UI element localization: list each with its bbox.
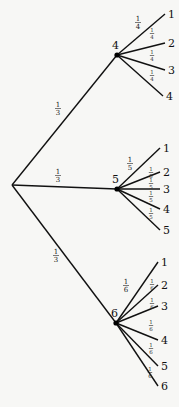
leaf-label-6-1: 1 — [161, 256, 168, 269]
leaf-label-5-5: 5 — [163, 224, 170, 237]
leaf-label-6-3: 3 — [161, 300, 168, 313]
node-label-6: 6 — [111, 307, 118, 320]
prob-5-to-5-numerator: 1 — [149, 207, 153, 213]
prob-5-to-1-denominator: 5 — [128, 164, 132, 172]
edge-5-to-5 — [117, 189, 160, 230]
prob-root-to-5-denominator: 3 — [56, 176, 60, 184]
leaf-label-4-1: 1 — [168, 8, 175, 21]
prob-6-to-4-numerator: 1 — [149, 319, 153, 325]
prob-4-to-4-numerator: 1 — [150, 69, 154, 75]
edge-4-to-3 — [117, 55, 165, 70]
node-label-4: 4 — [112, 39, 119, 52]
probability-tree: 1311421431441441311521531541551551311621… — [0, 0, 179, 407]
prob-6-to-3-denominator: 6 — [150, 304, 154, 310]
prob-5-to-3-denominator: 5 — [149, 184, 153, 190]
prob-6-to-2-denominator: 6 — [150, 285, 154, 291]
node-dot-4 — [114, 52, 119, 57]
prob-5-to-4-numerator: 1 — [149, 190, 153, 196]
prob-5-to-3-numerator: 1 — [149, 177, 153, 183]
leaf-label-4-3: 3 — [168, 64, 175, 77]
prob-6-to-6-numerator: 1 — [148, 366, 152, 372]
prob-4-to-2-denominator: 4 — [150, 34, 154, 40]
prob-root-to-6-denominator: 3 — [54, 256, 58, 264]
leaf-label-5-1: 1 — [163, 142, 170, 155]
edge-5-to-2 — [117, 172, 160, 189]
prob-4-to-1-denominator: 4 — [136, 23, 141, 31]
node-dot-5 — [114, 186, 119, 191]
edge-4-to-4 — [117, 55, 163, 96]
leaf-label-5-3: 3 — [163, 183, 170, 196]
edge-5-to-1 — [117, 148, 160, 189]
prob-5-to-4-denominator: 5 — [149, 197, 153, 203]
prob-6-to-1-denominator: 6 — [124, 286, 129, 294]
leaf-label-6-4: 4 — [161, 334, 168, 347]
leaf-label-6-6: 6 — [161, 380, 168, 393]
leaf-label-4-4: 4 — [166, 90, 173, 103]
prob-6-to-2-numerator: 1 — [150, 278, 154, 284]
node-dot-6 — [113, 320, 118, 325]
prob-6-to-5-denominator: 6 — [149, 349, 153, 355]
edge-root-to-5 — [12, 185, 117, 189]
edge-root-to-4 — [12, 55, 117, 185]
leaf-label-5-2: 2 — [163, 166, 170, 179]
edge-5-to-4 — [117, 189, 160, 209]
prob-4-to-3-numerator: 1 — [150, 49, 154, 55]
leaf-label-6-5: 5 — [161, 360, 168, 373]
prob-6-to-4-denominator: 6 — [149, 326, 153, 332]
leaf-label-6-2: 2 — [161, 279, 168, 292]
prob-4-to-3-denominator: 4 — [150, 56, 154, 62]
node-label-5: 5 — [112, 173, 119, 186]
prob-6-to-6-denominator: 6 — [148, 373, 152, 379]
prob-5-to-5-denominator: 5 — [149, 214, 153, 220]
edge-root-to-6 — [12, 185, 116, 323]
prob-4-to-2-numerator: 1 — [150, 27, 154, 33]
prob-6-to-5-numerator: 1 — [149, 342, 153, 348]
leaf-label-5-4: 4 — [163, 203, 170, 216]
prob-5-to-2-numerator: 1 — [149, 166, 153, 172]
leaf-label-4-2: 2 — [168, 37, 175, 50]
prob-4-to-4-denominator: 4 — [150, 76, 154, 82]
prob-root-to-4-denominator: 3 — [56, 109, 60, 117]
prob-6-to-3-numerator: 1 — [150, 297, 154, 303]
